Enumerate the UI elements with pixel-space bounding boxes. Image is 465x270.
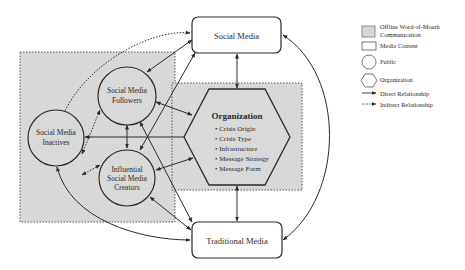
node-social-media: Social Media: [192, 17, 281, 53]
traditional-media-label: Traditional Media: [206, 236, 268, 246]
followers-label-line1: Social Media: [107, 86, 147, 95]
legend-organization: Organization: [380, 76, 414, 83]
legend-swatch-media-content: [362, 42, 376, 50]
legend-swatch-offline-wom: [362, 26, 375, 37]
legend: Offline Word-of-Mouth Communication Medi…: [361, 23, 440, 108]
social-media-label: Social Media: [214, 31, 259, 41]
org-bullet-crisis-origin: • Crisis Origin: [215, 125, 256, 133]
node-traditional-media: Traditional Media: [192, 222, 282, 258]
creators-label-line2: Social Media: [107, 174, 147, 183]
org-bullet-message-form: • Message Form: [215, 165, 261, 173]
organization-title: Organization: [212, 111, 263, 121]
org-bullet-infrastructure: • Infrastructure: [215, 145, 257, 153]
inactives-label-line2: Inactives: [42, 138, 69, 147]
legend-swatch-organization: [361, 74, 377, 87]
legend-indirect-relationship: Indirect Relationship: [380, 101, 433, 108]
node-influential-creators: Influential Social Media Creators: [99, 150, 155, 206]
node-social-media-followers: Social Media Followers: [98, 67, 156, 125]
legend-swatch-public: [362, 55, 376, 69]
followers-label-line2: Followers: [112, 96, 142, 105]
node-social-media-inactives: Social Media Inactives: [28, 110, 84, 166]
diagram-canvas: Social Media Traditional Media Social Me…: [0, 0, 465, 270]
creators-label-line3: Creators: [114, 183, 139, 192]
org-bullet-message-strategy: • Message Strategy: [215, 155, 269, 163]
legend-offline-wom-line2: Communication: [380, 31, 421, 38]
legend-offline-wom-line1: Offline Word-of-Mouth: [380, 23, 440, 30]
legend-direct-relationship: Direct Relationship: [380, 90, 429, 97]
org-bullet-crisis-type: • Crisis Type: [215, 135, 251, 143]
creators-label-line1: Influential: [111, 165, 142, 174]
inactives-label-line1: Social Media: [36, 128, 76, 137]
legend-public: Public: [380, 58, 396, 65]
legend-media-content: Media Content: [380, 42, 418, 49]
